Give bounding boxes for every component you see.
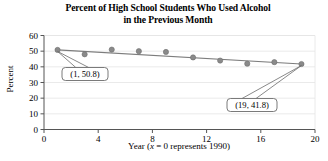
x-axis-label-suffix: = 0 represents 1990) — [154, 141, 230, 151]
y-tick-label: 10 — [29, 109, 39, 119]
data-point — [218, 58, 223, 63]
plot-area: 0102030405060 048121620 (1, 50.8)(19, 41… — [0, 0, 328, 161]
y-tick-label: 30 — [29, 78, 39, 88]
y-tick-label: 40 — [29, 62, 39, 72]
y-tick-label: 60 — [29, 31, 39, 41]
annotation-callout-label: (19, 41.8) — [235, 100, 269, 110]
y-tick-label: 50 — [29, 46, 39, 56]
annotation-callouts: (1, 50.8)(19, 41.8) — [62, 68, 277, 112]
annotation-callout-label: (1, 50.8) — [70, 69, 99, 79]
data-point — [272, 60, 277, 65]
y-tick-label: 0 — [34, 125, 39, 135]
data-point — [245, 61, 250, 66]
y-axis-label: Percent — [5, 51, 15, 107]
data-point — [190, 55, 195, 60]
data-point — [82, 52, 87, 57]
gridlines — [44, 36, 315, 130]
chart-svg: 0102030405060 048121620 (1, 50.8)(19, 41… — [0, 0, 328, 161]
chart-figure: Percent of High School Students Who Used… — [0, 0, 328, 161]
x-axis-label-prefix: Year ( — [128, 141, 150, 151]
y-axis-ticks: 0102030405060 — [29, 31, 44, 135]
data-point — [163, 49, 168, 54]
x-axis-label: Year (x = 0 represents 1990) — [44, 141, 314, 151]
trend-line — [58, 50, 302, 64]
y-tick-label: 20 — [29, 93, 39, 103]
data-point — [109, 47, 114, 52]
data-point — [136, 49, 141, 54]
